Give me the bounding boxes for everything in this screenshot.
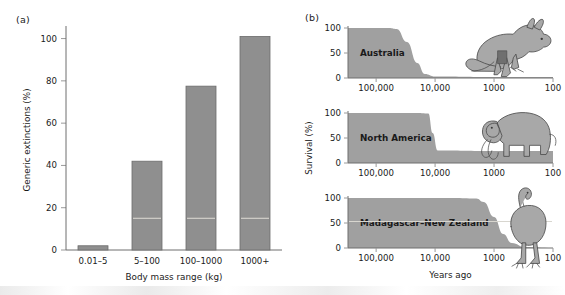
kangaroo-illustration [466,18,551,76]
region-label: Madagascar–New Zealand [360,218,489,228]
x-tick-label: 10,000 [420,253,450,263]
x-tick-label: 100 [545,168,561,178]
x-tick-label: 100 [545,253,561,263]
panel-b-x-axis-label: Years ago [428,270,471,280]
x-tick-label: 100 [545,83,561,93]
y-tick-label: 0 [336,243,341,253]
x-tick-label: 100,000 [358,168,394,178]
y-tick-label: 50 [330,218,341,228]
region-label: North America [360,133,432,143]
panel-b-y-axis-title: Survival (%) [304,121,314,175]
x-tick-label: 100,000 [358,253,394,263]
x-tick-label: 1000 [483,253,505,263]
y-tick-label: 0 [336,73,341,83]
y-tick-label: 100 [325,108,341,118]
panel-b-x-axis-title: Years ago [428,270,471,280]
y-tick-label: 0 [336,158,341,168]
y-tick-label: 50 [330,48,341,58]
x-tick-label: 1000 [483,83,505,93]
y-tick-label: 100 [325,193,341,203]
x-tick-label: 1000 [483,168,505,178]
y-tick-label: 50 [330,133,341,143]
y-tick-label: 100 [325,23,341,33]
region-label: Australia [360,48,405,58]
panel-b-chart: Survival (%) 050100100,00010,0001000100A… [0,0,565,295]
moa-illustration [511,188,546,268]
x-tick-label: 100,000 [358,83,394,93]
figure-root: (a) 020406080100 Generic extinctions (%)… [0,0,565,295]
panel-b-y-axis-label: Survival (%) [304,121,314,175]
scan-artifact-bottom [0,286,565,295]
x-tick-label: 10,000 [420,168,450,178]
x-tick-label: 10,000 [420,83,450,93]
